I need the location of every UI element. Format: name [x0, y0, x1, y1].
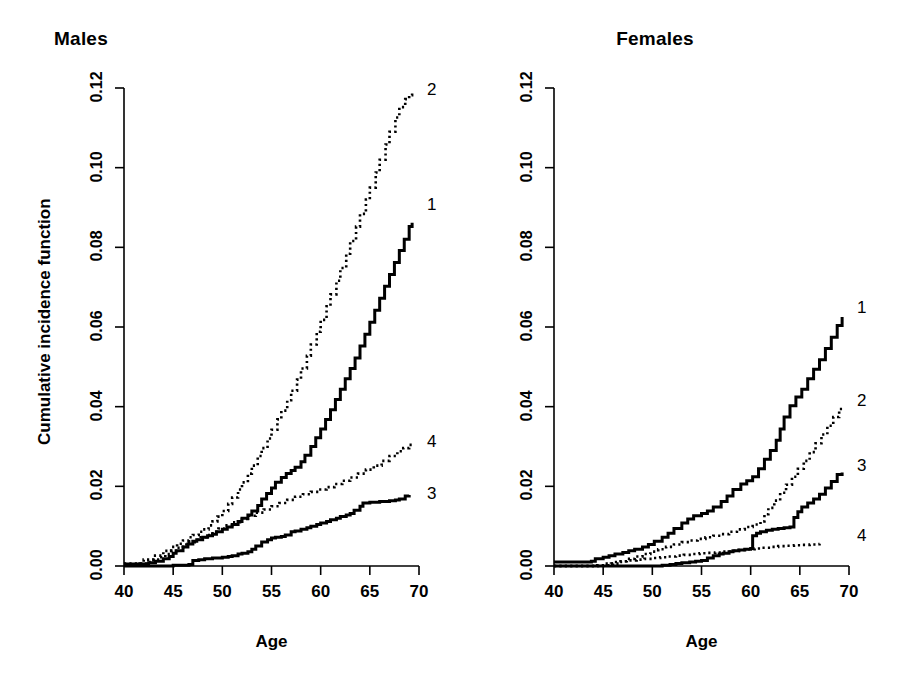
x-tick-label: 40	[532, 582, 576, 602]
y-tick-label: 0.10	[518, 137, 536, 197]
series-line-2	[554, 407, 842, 566]
series-label-2: 2	[857, 391, 866, 411]
y-tick-label: 0.02	[88, 455, 106, 515]
x-tick-label: 65	[348, 582, 392, 602]
cumulative-incidence-figure: Males Females Cumulative incidence funct…	[0, 0, 912, 693]
y-tick-label: 0.10	[88, 137, 106, 197]
series-line-1	[554, 317, 842, 562]
series-line-3	[124, 495, 409, 566]
y-tick-label: 0.12	[518, 57, 536, 117]
x-tick-label: 45	[151, 582, 195, 602]
series-label-3: 3	[427, 484, 436, 504]
y-tick-label: 0.02	[518, 455, 536, 515]
y-tick-label: 0.04	[88, 376, 106, 436]
y-axis-title: Cumulative incidence function	[35, 205, 55, 445]
y-tick-label: 0.06	[518, 296, 536, 356]
x-tick-label: 70	[397, 582, 441, 602]
x-tick-label: 55	[250, 582, 294, 602]
y-tick-label: 0.04	[518, 376, 536, 436]
series-label-1: 1	[427, 195, 436, 215]
x-tick-label: 45	[581, 582, 625, 602]
y-tick-label: 0.06	[88, 296, 106, 356]
series-label-2: 2	[427, 80, 436, 100]
series-label-4: 4	[427, 432, 436, 452]
x-tick-label: 55	[680, 582, 724, 602]
x-tick-label: 50	[630, 582, 674, 602]
x-tick-label: 60	[299, 582, 343, 602]
y-tick-label: 0.08	[518, 216, 536, 276]
series-label-1: 1	[857, 298, 866, 318]
x-tick-label: 65	[778, 582, 822, 602]
x-axis-title: Age	[602, 632, 802, 652]
y-tick-label: 0.08	[88, 216, 106, 276]
x-tick-label: 40	[102, 582, 146, 602]
y-tick-label: 0.12	[88, 57, 106, 117]
x-tick-label: 60	[729, 582, 773, 602]
x-axis-title: Age	[172, 632, 372, 652]
series-label-4: 4	[857, 526, 866, 546]
series-line-3	[554, 472, 842, 566]
x-tick-label: 70	[827, 582, 871, 602]
series-label-3: 3	[857, 456, 866, 476]
x-tick-label: 50	[200, 582, 244, 602]
series-line-1	[124, 223, 412, 564]
